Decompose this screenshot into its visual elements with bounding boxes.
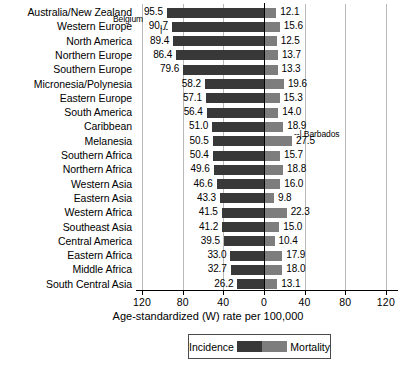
x-tick-label: 120: [366, 296, 406, 308]
x-tick-label: 40: [203, 296, 243, 308]
incidence-bar: [213, 151, 264, 161]
chart-row: Australia/New Zealand95.512.1: [0, 5, 416, 20]
x-tick-label: 120: [122, 296, 162, 308]
cancer-rate-diverging-bar-chart: 120804004080120 Age-standardized (W) rat…: [0, 0, 416, 366]
incidence-bar: [212, 122, 264, 132]
category-label: Australia/New Zealand: [27, 6, 132, 18]
chart-row: Middle Africa32.718.0: [0, 262, 416, 277]
incidence-value-label: 39.5: [176, 235, 220, 246]
category-label: South Central Asia: [46, 278, 132, 290]
mortality-bar: [264, 8, 276, 18]
incidence-value-label: 50.5: [165, 135, 209, 146]
chart-row: Eastern Africa33.017.9: [0, 248, 416, 263]
category-label: Western Africa: [65, 206, 132, 218]
x-axis-title: Age-standardized (W) rate per 100,000: [0, 310, 416, 322]
legend-swatch-incidence: [237, 341, 262, 352]
x-tick-label: 80: [163, 296, 203, 308]
mortality-bar: [264, 36, 277, 46]
chart-legend: Incidence Mortality: [188, 334, 331, 359]
mortality-bar: [264, 279, 277, 289]
incidence-value-label: 26.2: [189, 278, 233, 289]
mortality-bar: [264, 22, 280, 32]
incidence-value-label: 56.4: [159, 106, 203, 117]
incidence-bar: [205, 79, 264, 89]
incidence-bar: [230, 251, 264, 261]
incidence-value-label: 43.3: [172, 192, 216, 203]
incidence-value-label: 46.6: [169, 178, 213, 189]
incidence-value-label: 58.2: [157, 78, 201, 89]
category-label: Micronesia/Polynesia: [34, 78, 132, 90]
category-label: Eastern Africa: [67, 249, 132, 261]
mortality-bar: [264, 50, 278, 60]
incidence-bar: [176, 50, 264, 60]
chart-row: North America89.412.5: [0, 34, 416, 49]
chart-row: Western Europe90.715.6: [0, 19, 416, 34]
chart-row: Southern Africa50.415.7: [0, 148, 416, 163]
mortality-value-label: 12.5: [281, 35, 300, 46]
chart-row: Northern Europe86.413.7: [0, 48, 416, 63]
mortality-value-label: 15.6: [284, 20, 303, 31]
mortality-bar: [264, 136, 292, 146]
mortality-value-label: 13.3: [282, 63, 301, 74]
mortality-bar: [264, 193, 274, 203]
incidence-bar: [214, 165, 264, 175]
mortality-value-label: 14.0: [282, 106, 301, 117]
incidence-value-label: 86.4: [128, 49, 172, 60]
incidence-bar: [183, 65, 264, 75]
x-tick-label: 0: [244, 296, 284, 308]
mortality-bar: [264, 179, 280, 189]
mortality-value-label: 13.7: [282, 49, 301, 60]
chart-row: South Central Asia26.213.1: [0, 277, 416, 292]
category-label: Melanesia: [85, 135, 132, 147]
incidence-value-label: 95.5: [119, 6, 163, 17]
incidence-bar: [237, 279, 264, 289]
legend-swatch-mortality: [262, 341, 287, 352]
mortality-value-label: 27.5: [296, 135, 315, 146]
chart-row: Eastern Asia43.39.8: [0, 191, 416, 206]
category-label: Western Europe: [57, 20, 132, 32]
category-label: South America: [64, 106, 132, 118]
category-label: Eastern Europe: [60, 92, 132, 104]
incidence-bar: [173, 36, 264, 46]
mortality-bar: [264, 222, 279, 232]
mortality-value-label: 18.8: [287, 163, 306, 174]
chart-row: Northern Africa49.618.8: [0, 162, 416, 177]
mortality-value-label: 19.6: [288, 78, 307, 89]
legend-label-mortality: Mortality: [290, 341, 330, 353]
mortality-value-label: 12.1: [280, 6, 299, 17]
incidence-bar: [222, 222, 264, 232]
mortality-bar: [264, 251, 282, 261]
category-label: Western Asia: [71, 178, 132, 190]
category-label: North America: [66, 35, 132, 47]
category-label: Middle Africa: [73, 263, 132, 275]
mortality-bar: [264, 265, 282, 275]
chart-row: Central America39.510.4: [0, 234, 416, 249]
mortality-value-label: 13.1: [281, 278, 300, 289]
incidence-value-label: 57.1: [158, 92, 202, 103]
incidence-value-label: 33.0: [182, 249, 226, 260]
chart-row: Southern Europe79.613.3: [0, 62, 416, 77]
mortality-bar: [264, 208, 287, 218]
incidence-value-label: 51.0: [164, 120, 208, 131]
mortality-bar: [264, 65, 278, 75]
mortality-bar: [264, 79, 284, 89]
incidence-value-label: 89.4: [125, 35, 169, 46]
incidence-value-label: 32.7: [183, 263, 227, 274]
chart-row: Melanesia50.527.5: [0, 134, 416, 149]
mortality-bar: [264, 151, 280, 161]
mortality-value-label: 15.3: [284, 92, 303, 103]
chart-row: Southeast Asia41.215.0: [0, 220, 416, 235]
chart-row: Caribbean51.018.9: [0, 119, 416, 134]
category-label: Eastern Asia: [74, 192, 132, 204]
chart-row: Western Africa41.522.3: [0, 205, 416, 220]
category-label: Caribbean: [84, 120, 132, 132]
mortality-bar: [264, 122, 283, 132]
mortality-bar: [264, 165, 283, 175]
chart-row: Western Asia46.616.0: [0, 177, 416, 192]
incidence-value-label: 50.4: [165, 149, 209, 160]
incidence-bar: [207, 108, 264, 118]
category-label: Southeast Asia: [63, 221, 132, 233]
mortality-bar: [264, 236, 275, 246]
incidence-bar: [217, 179, 264, 189]
incidence-bar: [231, 265, 264, 275]
